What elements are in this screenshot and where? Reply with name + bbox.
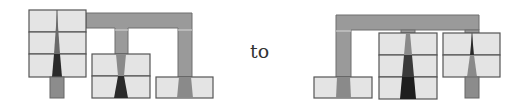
stem (50, 77, 64, 98)
stack-node-a (443, 33, 500, 98)
box-node-c (314, 77, 372, 98)
after-diagram (314, 15, 500, 99)
wedge-icon (177, 77, 193, 98)
stem (465, 77, 479, 98)
box-node-c (156, 77, 213, 98)
wedge-icon (336, 77, 351, 98)
stack-node-b (379, 33, 437, 99)
before-diagram (29, 10, 213, 98)
wedge-icon (402, 55, 414, 77)
wedge-icon (400, 77, 416, 99)
transformation-label: to (250, 40, 269, 62)
stack-node-b (92, 54, 150, 98)
stack-node-a (29, 10, 86, 98)
